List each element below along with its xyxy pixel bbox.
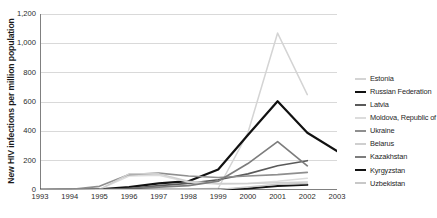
legend-swatch-belarus bbox=[355, 143, 366, 145]
x-tick-label: 2003 bbox=[329, 192, 346, 201]
legend-label-latvia: Latvia bbox=[370, 101, 389, 108]
legend-label-estonia: Estonia bbox=[370, 75, 394, 82]
x-tick-label: 2002 bbox=[299, 192, 316, 201]
legend-label-ukraine: Ukraine bbox=[370, 127, 394, 134]
legend-item-estonia[interactable]: Estonia bbox=[355, 72, 437, 85]
plot-area bbox=[40, 14, 337, 190]
legend-swatch-estonia bbox=[355, 78, 366, 80]
legend-label-kazakhstan: Kazakhstan bbox=[370, 153, 407, 160]
y-tick-label: 1,000 bbox=[6, 39, 36, 47]
y-tick-label: 200 bbox=[6, 157, 36, 165]
legend-swatch-ukraine bbox=[355, 130, 366, 132]
legend-swatch-kyrgyzstan bbox=[355, 169, 366, 171]
legend-label-russian-federation: Russian Federation bbox=[370, 88, 431, 95]
legend-item-kazakhstan[interactable]: Kazakhstan bbox=[355, 151, 437, 164]
legend-item-ukraine[interactable]: Ukraine bbox=[355, 124, 437, 137]
series-lines bbox=[40, 33, 337, 190]
legend-swatch-uzbekistan bbox=[355, 182, 366, 184]
y-tick-label: 1,200 bbox=[6, 10, 36, 18]
legend-label-belarus: Belarus bbox=[370, 140, 394, 147]
y-tick-label: 800 bbox=[6, 69, 36, 77]
x-tick-label: 1994 bbox=[61, 192, 78, 201]
y-tick-label: 400 bbox=[6, 127, 36, 135]
legend-item-latvia[interactable]: Latvia bbox=[355, 98, 437, 111]
legend-label-uzbekistan: Uzbekistan bbox=[370, 180, 405, 187]
y-axis-tick-labels: 02004006008001,0001,200 bbox=[6, 0, 36, 218]
x-tick-label: 1993 bbox=[32, 192, 49, 201]
legend-label-kyrgyzstan: Kyrgyzstan bbox=[370, 167, 405, 174]
legend-label-moldova-republic-of: Moldova, Republic of bbox=[370, 114, 436, 121]
legend-item-russian-federation[interactable]: Russian Federation bbox=[355, 85, 437, 98]
legend-swatch-latvia bbox=[355, 104, 366, 106]
x-tick-label: 1999 bbox=[210, 192, 227, 201]
plot-svg bbox=[40, 14, 337, 190]
x-tick-label: 1996 bbox=[121, 192, 138, 201]
legend-swatch-kazakhstan bbox=[355, 156, 366, 158]
legend-item-moldova-republic-of[interactable]: Moldova, Republic of bbox=[355, 111, 437, 124]
legend-swatch-russian-federation bbox=[355, 91, 366, 93]
y-tick-label: 600 bbox=[6, 98, 36, 106]
x-tick-label: 2001 bbox=[269, 192, 286, 201]
x-tick-label: 1995 bbox=[91, 192, 108, 201]
gridlines bbox=[40, 14, 337, 161]
legend-swatch-moldova-republic-of bbox=[355, 117, 366, 119]
chart-legend: EstoniaRussian FederationLatviaMoldova, … bbox=[355, 72, 437, 190]
legend-item-kyrgyzstan[interactable]: Kyrgyzstan bbox=[355, 164, 437, 177]
legend-item-belarus[interactable]: Belarus bbox=[355, 137, 437, 150]
x-axis-tick-labels: 1993199419951996199719981999200020012002… bbox=[40, 192, 337, 210]
x-tick-label: 2000 bbox=[239, 192, 256, 201]
legend-item-uzbekistan[interactable]: Uzbekistan bbox=[355, 177, 437, 190]
hiv-infections-line-chart: New HIV infections per million populatio… bbox=[0, 0, 437, 218]
x-tick-label: 1998 bbox=[180, 192, 197, 201]
x-tick-label: 1997 bbox=[150, 192, 167, 201]
